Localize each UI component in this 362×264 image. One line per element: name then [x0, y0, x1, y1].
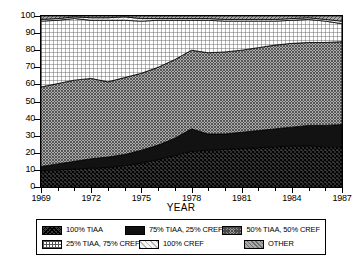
legend-item-label: 50% TIAA, 50% CREF: [246, 226, 320, 234]
legend-item-other: OTHER: [244, 240, 294, 249]
y-tick-label: 80: [5, 45, 35, 54]
y-tick-label: 30: [5, 131, 35, 140]
x-tick-mark: [275, 188, 276, 191]
x-tick-mark: [58, 188, 59, 191]
x-tick-mark: [208, 188, 209, 191]
y-tick-label: 70: [5, 62, 35, 71]
y-tick-label: 100: [5, 11, 35, 20]
y-tick-label: 20: [5, 148, 35, 157]
legend-row: 25% TIAA, 75% CREF 100% CREF OTHER: [42, 237, 320, 251]
legend-item-25-tiaa-75-cref: 25% TIAA, 75% CREF: [42, 240, 139, 249]
legend-item-label: 100% CREF: [163, 240, 204, 248]
legend-swatch-icon: [139, 240, 159, 249]
x-tick-mark: [258, 188, 259, 191]
y-tick-label: 60: [5, 79, 35, 88]
legend-swatch-icon: [222, 226, 242, 235]
x-axis-title: YEAR: [0, 202, 362, 213]
y-tick-label: 40: [5, 114, 35, 123]
y-axis: 0102030405060708090100: [0, 0, 40, 200]
plot-area: [40, 15, 343, 188]
legend-item-100-cref: 100% CREF: [139, 240, 244, 249]
x-tick-mark: [158, 188, 159, 191]
legend-item-label: 100% TIAA: [66, 226, 103, 234]
legend-swatch-icon: [42, 226, 62, 235]
stacked-area-svg: [41, 16, 342, 187]
x-tick-mark: [309, 188, 310, 191]
legend-item-100-tiaa: 100% TIAA: [42, 226, 125, 235]
chart-root: 0102030405060708090100: [0, 0, 362, 264]
legend-item-label: OTHER: [268, 240, 294, 248]
x-tick-mark: [74, 188, 75, 191]
x-tick-mark: [125, 188, 126, 191]
x-tick-mark: [325, 188, 326, 191]
legend-item-75-tiaa-25-cref: 75% TIAA, 25% CREF: [125, 226, 223, 235]
x-tick-mark: [108, 188, 109, 191]
y-tick-label: 50: [5, 97, 35, 106]
x-tick-mark: [175, 188, 176, 191]
legend-swatch-icon: [125, 226, 145, 235]
y-tick-label: 10: [5, 165, 35, 174]
legend-item-label: 75% TIAA, 25% CREF: [149, 226, 223, 234]
chart-legend: 100% TIAA 75% TIAA, 25% CREF 50% TIAA, 5…: [36, 219, 326, 255]
y-tick-label: 90: [5, 28, 35, 37]
legend-item-label: 25% TIAA, 75% CREF: [66, 240, 140, 248]
legend-row: 100% TIAA 75% TIAA, 25% CREF 50% TIAA, 5…: [42, 223, 320, 237]
legend-item-50-tiaa-50-cref: 50% TIAA, 50% CREF: [222, 226, 320, 235]
x-tick-mark: [225, 188, 226, 191]
legend-swatch-icon: [42, 240, 62, 249]
legend-swatch-icon: [244, 240, 264, 249]
